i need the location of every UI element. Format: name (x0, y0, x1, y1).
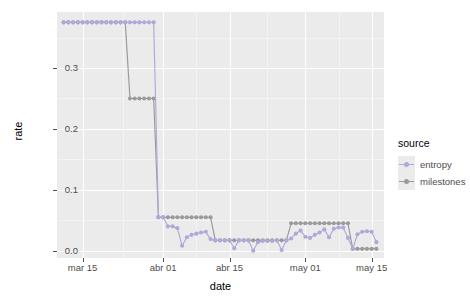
data-point (66, 20, 70, 24)
data-point (128, 96, 132, 100)
data-point (313, 233, 317, 237)
data-point (294, 221, 298, 225)
data-point (265, 239, 269, 243)
y-tick-label: 0.1 (65, 185, 78, 195)
data-point (313, 221, 317, 225)
data-point (190, 233, 194, 237)
plot-panel (57, 12, 384, 258)
data-point (237, 238, 241, 242)
x-tick-mark (83, 258, 84, 262)
data-point (275, 238, 279, 242)
x-tick-mark (372, 258, 373, 262)
data-point (142, 96, 146, 100)
data-point (171, 224, 175, 228)
legend-item-entropy[interactable]: entropy (398, 156, 465, 173)
legend-item-milestones[interactable]: milestones (398, 173, 465, 190)
data-point (303, 221, 307, 225)
data-point (289, 221, 293, 225)
data-point (142, 20, 146, 24)
x-tick-label: may 01 (290, 263, 321, 273)
legend-key-point (404, 179, 409, 184)
y-tick-mark (53, 129, 57, 130)
data-point (147, 96, 151, 100)
data-point (327, 221, 331, 225)
y-tick-mark (53, 68, 57, 69)
data-point (185, 215, 189, 219)
data-point (199, 230, 203, 234)
data-point (332, 221, 336, 225)
data-point (365, 247, 369, 251)
data-point (128, 20, 132, 24)
data-point (175, 226, 179, 230)
data-point (71, 20, 75, 24)
data-point (322, 221, 326, 225)
series-line (64, 22, 377, 249)
data-point (190, 215, 194, 219)
data-point (355, 247, 359, 251)
x-tick-label: may 15 (356, 263, 387, 273)
data-point (374, 240, 378, 244)
y-tick-label: 0.2 (65, 124, 78, 134)
legend-entries: entropymilestones (398, 156, 465, 190)
x-tick-label: mar 15 (68, 263, 98, 273)
data-point (81, 20, 85, 24)
data-point (194, 215, 198, 219)
legend-title: source (398, 137, 465, 149)
legend-label: milestones (420, 176, 465, 187)
data-point (332, 227, 336, 231)
data-point (346, 236, 350, 240)
data-point (370, 230, 374, 234)
data-point (294, 232, 298, 236)
data-point (194, 232, 198, 236)
data-point (209, 237, 213, 241)
series-milestones (62, 20, 379, 251)
data-point (171, 215, 175, 219)
data-point (180, 244, 184, 248)
data-point (137, 20, 141, 24)
x-tick-label: abr 01 (150, 263, 177, 273)
data-point (242, 238, 246, 242)
data-point (303, 235, 307, 239)
data-point (90, 20, 94, 24)
data-point (336, 221, 340, 225)
data-point (133, 96, 137, 100)
x-tick-label: abr 15 (216, 263, 243, 273)
data-point (318, 221, 322, 225)
data-point (114, 20, 118, 24)
data-point (100, 20, 104, 24)
data-point (180, 215, 184, 219)
data-point (246, 238, 250, 242)
data-point (355, 232, 359, 236)
data-point (76, 20, 80, 24)
data-point (289, 236, 293, 240)
data-point (156, 215, 160, 219)
data-point (284, 238, 288, 242)
data-point (318, 230, 322, 234)
legend-key-point (404, 162, 409, 167)
data-point (199, 215, 203, 219)
data-point (166, 224, 170, 228)
chart-root: 0.00.10.20.3 rate mar 15abr 01abr 15may … (0, 0, 470, 307)
data-point (308, 236, 312, 240)
data-point (62, 20, 66, 24)
data-point (261, 239, 265, 243)
data-point (147, 20, 151, 24)
data-point (204, 230, 208, 234)
y-tick-label: 0.3 (65, 63, 78, 73)
y-tick-mark (53, 251, 57, 252)
data-point (251, 238, 255, 242)
data-point (161, 215, 165, 219)
data-point (175, 215, 179, 219)
data-point (166, 215, 170, 219)
data-point (232, 246, 236, 250)
data-point (137, 96, 141, 100)
data-point (185, 235, 189, 239)
data-point (218, 238, 222, 242)
data-point (360, 247, 364, 251)
data-series-layer (57, 12, 384, 258)
data-point (308, 221, 312, 225)
data-point (118, 20, 122, 24)
legend-key-icon (398, 173, 415, 190)
x-tick-mark (230, 258, 231, 262)
legend-label: entropy (420, 159, 452, 170)
